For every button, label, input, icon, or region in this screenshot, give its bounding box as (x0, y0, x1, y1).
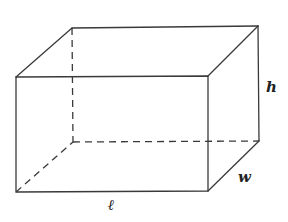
front-face (16, 76, 208, 192)
length-label: ℓ (108, 198, 114, 213)
hidden-back-bottom-edge (73, 141, 259, 142)
top-back-edge (72, 26, 258, 28)
hidden-back-left-vertical-edge (72, 28, 73, 142)
rectangular-prism-diagram: h w ℓ (0, 0, 288, 222)
height-label: h (266, 80, 277, 95)
prism-figure (0, 0, 288, 222)
bottom-right-depth-edge (208, 141, 259, 191)
top-left-depth-edge (16, 28, 72, 77)
back-right-vertical-edge (258, 26, 259, 141)
hidden-bottom-left-depth-edge (16, 142, 73, 192)
top-right-depth-edge (208, 26, 258, 76)
width-label: w (238, 170, 251, 185)
